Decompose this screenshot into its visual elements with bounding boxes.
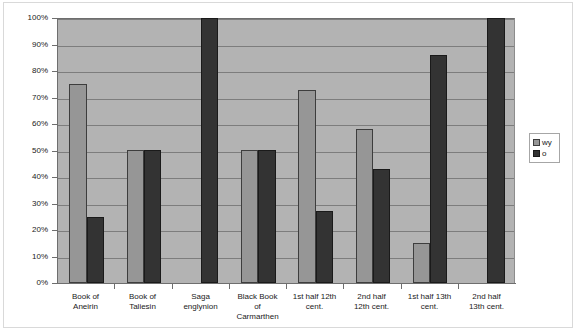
bar-o-7 [487,18,504,283]
x-axis-tick-mark [286,284,287,289]
plot-area [57,18,515,283]
x-axis-tick-mark [114,284,115,289]
x-axis-category-label-line: Book of [57,292,114,302]
x-axis-tick-mark [172,284,173,289]
bar-group [298,19,332,283]
x-axis-category-label-line: Black Book [229,292,286,302]
y-axis-tick-label: 0% [36,278,48,287]
x-axis-category-label-line: 1st half 13th [401,292,458,302]
x-axis-category-label-line: 2nd half [458,292,515,302]
x-axis-category-label: Book ofTaliesin [114,292,171,312]
x-axis-category-label-line: Book of [114,292,171,302]
y-axis-tick-label: 50% [32,146,48,155]
y-axis-tick-label: 40% [32,172,48,181]
bar-wy-5 [356,129,373,283]
x-axis-tick-mark [401,284,402,289]
x-axis-category-label-line: Saga [172,292,229,302]
bars-layer [58,19,514,283]
bar-group [413,19,447,283]
legend-label: wy [542,138,552,147]
x-axis-category-label-line: cent. [401,302,458,312]
x-axis-tick-mark [229,284,230,289]
y-axis-tick-label: 20% [32,225,48,234]
bar-o-3 [258,150,275,283]
x-axis-category-label: 2nd half13th cent. [458,292,515,312]
legend-entry-o[interactable]: o [533,148,557,159]
x-axis-category-label: Book ofAneirin [57,292,114,312]
x-axis-category-label: Sagaenglynion [172,292,229,312]
legend-label: o [542,149,546,158]
bar-o-6 [430,55,447,283]
bar-group [356,19,390,283]
x-axis-category-label-line: of [229,302,286,312]
y-axis-tick-label: 70% [32,93,48,102]
x-axis-category-label: 1st half 13thcent. [401,292,458,312]
x-axis-category-label-line: Aneirin [57,302,114,312]
bar-o-5 [373,169,390,283]
x-axis-tick-mark [343,284,344,289]
y-axis-tick-label: 100% [28,13,48,22]
legend-entry-wy[interactable]: wy [533,137,557,148]
bar-o-2 [201,18,218,283]
x-axis-category-label-line: 13th cent. [458,302,515,312]
legend-swatch-icon [533,150,540,157]
bar-o-4 [316,211,333,283]
y-axis-tick-label: 60% [32,119,48,128]
bar-wy-1 [127,150,144,283]
y-axis-tick-label: 10% [32,252,48,261]
bar-group [470,19,504,283]
x-axis-category-label-line: cent. [286,302,343,312]
y-axis-tick-label: 30% [32,199,48,208]
x-axis-tick-mark [458,284,459,289]
bar-group [241,19,275,283]
bar-wy-3 [241,150,258,283]
x-axis-category-label: 2nd half12th cent. [343,292,400,312]
x-axis-category-label-line: 2nd half [343,292,400,302]
x-axis-category-label: Black BookofCarmarthen [229,292,286,322]
chart-legend: wyo [529,133,560,163]
bar-o-1 [144,150,161,283]
x-axis-category-label-line: Taliesin [114,302,171,312]
bar-group [184,19,218,283]
bar-chart: 0%10%20%30%40%50%60%70%80%90%100% Book o… [0,0,577,332]
legend-swatch-icon [533,139,540,146]
y-axis-tick-label: 80% [32,66,48,75]
x-axis-category-label-line: 12th cent. [343,302,400,312]
bar-wy-0 [69,84,86,283]
bar-o-0 [87,217,104,283]
bar-group [127,19,161,283]
y-axis-line [57,18,58,284]
bar-wy-4 [298,90,315,283]
bar-group [69,19,103,283]
bar-wy-6 [413,243,430,283]
x-axis-category-label-line: englynion [172,302,229,312]
y-axis-tick-label: 90% [32,40,48,49]
x-axis-category-label: 1st half 12thcent. [286,292,343,312]
x-axis-category-label-line: 1st half 12th [286,292,343,302]
x-axis-category-label-line: Carmarthen [229,312,286,322]
